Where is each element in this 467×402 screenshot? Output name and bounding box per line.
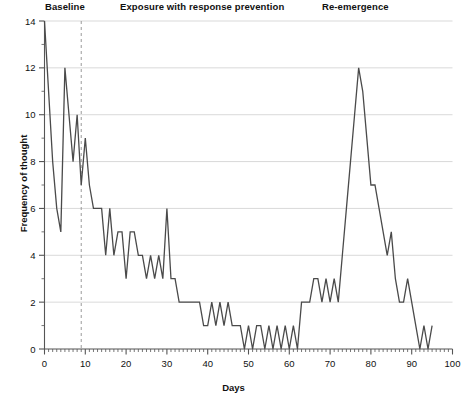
svg-text:12: 12 xyxy=(25,62,36,73)
chart-plot-area: 0102030405060708090100 02468101214 xyxy=(0,0,467,402)
phase-label-exposure: Exposure with response prevention xyxy=(120,1,284,12)
phase-label-reemergence: Re-emergence xyxy=(322,1,389,12)
svg-text:4: 4 xyxy=(30,250,35,261)
gridlines xyxy=(45,21,453,302)
y-axis-label: Frequency of thought xyxy=(18,114,29,254)
axes xyxy=(45,21,453,349)
svg-text:14: 14 xyxy=(25,16,36,27)
chart-figure: Baseline Exposure with response preventi… xyxy=(0,0,467,402)
phase-label-baseline: Baseline xyxy=(45,1,85,12)
svg-text:70: 70 xyxy=(325,358,336,369)
svg-text:0: 0 xyxy=(42,358,47,369)
svg-text:2: 2 xyxy=(30,297,35,308)
svg-text:60: 60 xyxy=(284,358,295,369)
svg-text:100: 100 xyxy=(445,358,461,369)
y-axis-ticks xyxy=(39,21,45,349)
svg-text:80: 80 xyxy=(366,358,377,369)
svg-text:6: 6 xyxy=(30,203,35,214)
svg-text:40: 40 xyxy=(202,358,213,369)
x-axis-label: Days xyxy=(0,382,467,393)
data-series-line xyxy=(45,21,433,349)
svg-text:90: 90 xyxy=(406,358,417,369)
svg-text:10: 10 xyxy=(80,358,91,369)
svg-text:20: 20 xyxy=(121,358,132,369)
svg-text:8: 8 xyxy=(30,156,35,167)
svg-text:30: 30 xyxy=(162,358,173,369)
svg-text:50: 50 xyxy=(243,358,254,369)
svg-text:0: 0 xyxy=(30,344,35,355)
x-axis-tick-labels: 0102030405060708090100 xyxy=(42,358,461,369)
x-axis-ticks xyxy=(45,349,453,355)
